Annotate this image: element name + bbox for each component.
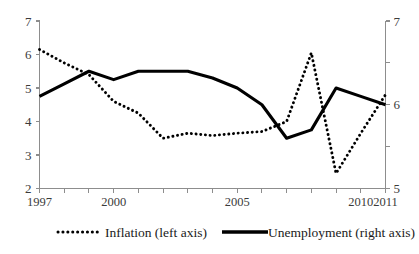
left-tick-label: 5 (25, 81, 32, 96)
left-tick-label: 4 (25, 114, 32, 129)
left-tick-label: 6 (25, 47, 32, 62)
chart-legend: Inflation (left axis) Unemployment (righ… (58, 225, 415, 240)
x-tick-label: 1997 (27, 195, 52, 209)
x-tick-label: 2000 (101, 195, 126, 209)
left-axis-ticks (36, 21, 40, 189)
legend-label-unemployment: Unemployment (right axis) (268, 225, 415, 240)
right-axis-ticks (386, 21, 390, 189)
left-y-axis: 234567 (25, 14, 40, 197)
plot-series (40, 49, 386, 173)
chart-figure: 234567 567 19972000200520102011 Inflatio… (0, 0, 419, 254)
series-line-inflation (40, 49, 386, 173)
left-tick-label: 3 (25, 148, 32, 163)
x-axis-tick-labels: 19972000200520102011 (27, 195, 398, 209)
x-axis-ticks (40, 189, 386, 193)
x-tick-label: 2005 (225, 195, 250, 209)
right-tick-label: 7 (394, 14, 401, 29)
series-line-unemployment (40, 71, 386, 138)
x-tick-label: 2011 (373, 195, 398, 209)
left-tick-label: 7 (25, 14, 32, 29)
right-axis-tick-labels: 567 (394, 14, 401, 197)
legend-label-inflation: Inflation (left axis) (105, 225, 207, 240)
x-tick-label: 2010 (348, 195, 373, 209)
x-axis: 19972000200520102011 (27, 189, 398, 209)
right-tick-label: 6 (394, 97, 401, 112)
right-y-axis: 567 (386, 14, 401, 197)
dual-axis-line-chart: 234567 567 19972000200520102011 Inflatio… (0, 0, 419, 254)
left-axis-tick-labels: 234567 (25, 14, 32, 197)
